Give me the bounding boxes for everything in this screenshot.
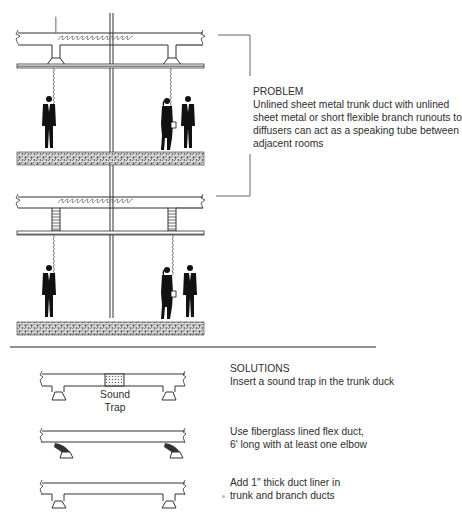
upper-ceiling [17,64,204,68]
solution-2-text: 6' long with at least one elbow [230,438,367,451]
lower-right-person [183,265,197,317]
upper-right-person [181,96,195,148]
solution-2-diagram [40,428,186,458]
problem-line: diffusers can act as a speaking tube bet… [253,124,459,137]
bullet-dot [222,495,225,498]
problem-line: adjacent rooms [253,137,323,150]
upper-sound-path [53,68,172,108]
vertical-column [110,13,113,318]
lower-right-woman [161,267,176,319]
upper-floor-slab [17,152,204,165]
lower-ceiling [17,231,204,235]
solution-3-text: trunk and branch ducts [230,489,335,502]
upper-right-woman [161,98,176,150]
solution-3-diagram [40,480,186,508]
solution-3-text: Add 1" thick duct liner in [230,476,340,489]
problem-line: sheet metal or short flexible branch run… [253,111,462,124]
sound-trap-label: Sound Trap [95,388,135,414]
problem-heading: PROBLEM [253,85,303,98]
sound-trap-label-line: Trap [95,401,135,414]
sound-trap [105,374,124,386]
problem-bracket [216,35,250,196]
sound-trap-label-line: Sound [95,388,135,401]
solutions-heading: SOLUTIONS [230,362,290,375]
lower-floor-slab [17,322,204,335]
problem-line: Unlined sheet metal trunk duct with unli… [253,98,449,111]
solution-1-text: Insert a sound trap in the trunk duck [230,375,394,388]
solution-2-text: Use fiberglass lined flex duct, [230,425,364,438]
lower-left-person [42,265,56,317]
